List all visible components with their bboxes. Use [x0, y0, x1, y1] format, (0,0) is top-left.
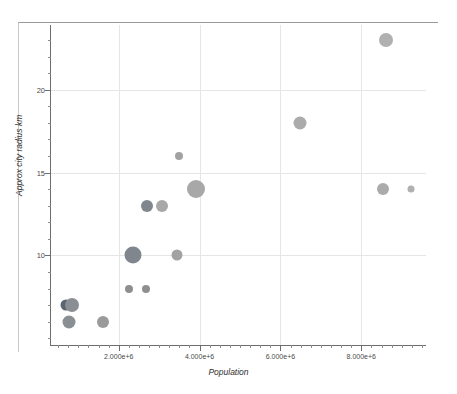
y-tick-minor: [48, 189, 51, 190]
x-tick-label: 8.000e+6: [331, 353, 391, 360]
y-tick-minor: [48, 40, 51, 41]
y-tick-minor: [48, 206, 51, 207]
x-tick-minor: [341, 345, 342, 348]
gridline-horizontal: [50, 173, 426, 174]
y-tick-label: 15: [5, 168, 45, 177]
x-tick-major: [200, 345, 201, 351]
data-point-bubble: [124, 247, 141, 264]
x-tick-minor: [78, 345, 79, 348]
y-tick-minor: [48, 73, 51, 74]
x-tick-major: [361, 345, 362, 351]
data-point-bubble: [65, 298, 79, 312]
x-tick-label: 6.000e+6: [250, 353, 310, 360]
y-tick-major: [45, 173, 51, 174]
y-tick-minor: [48, 338, 51, 339]
x-tick-minor: [371, 345, 372, 348]
x-tick-minor: [210, 345, 211, 348]
gridline-horizontal: [50, 255, 426, 256]
data-point-bubble: [408, 186, 415, 193]
x-tick-minor: [129, 345, 130, 348]
x-tick-minor: [351, 345, 352, 348]
y-tick-minor: [48, 305, 51, 306]
data-point-bubble: [125, 285, 133, 293]
x-tick-minor: [412, 345, 413, 348]
data-point-bubble: [171, 250, 182, 261]
x-tick-minor: [301, 345, 302, 348]
x-tick-minor: [392, 345, 393, 348]
gridline-vertical: [280, 25, 281, 345]
x-tick-minor: [99, 345, 100, 348]
data-point-bubble: [156, 200, 168, 212]
y-tick-label: 10: [5, 251, 45, 260]
x-tick-minor: [220, 345, 221, 348]
x-tick-minor: [58, 345, 59, 348]
plot-area: [50, 25, 426, 345]
x-tick-minor: [179, 345, 180, 348]
data-point-bubble: [63, 315, 76, 328]
x-tick-minor: [169, 345, 170, 348]
y-tick-minor: [48, 272, 51, 273]
x-tick-minor: [250, 345, 251, 348]
x-tick-label: 4.000e+6: [170, 353, 230, 360]
y-tick-minor: [48, 156, 51, 157]
data-point-bubble: [175, 152, 183, 160]
data-point-bubble: [187, 180, 205, 198]
x-tick-minor: [149, 345, 150, 348]
gridline-horizontal: [50, 90, 426, 91]
y-axis-title: Approx city radius km: [14, 115, 24, 196]
y-tick-minor: [48, 322, 51, 323]
x-tick-minor: [382, 345, 383, 348]
x-tick-label: 2.000e+6: [89, 353, 149, 360]
scatter-chart: 101520 2.000e+64.000e+66.000e+68.000e+6 …: [0, 0, 457, 394]
x-axis-title: Population: [0, 367, 457, 377]
x-tick-minor: [331, 345, 332, 348]
x-tick-minor: [159, 345, 160, 348]
data-point-bubble: [379, 33, 393, 47]
x-axis-line: [50, 345, 426, 346]
data-point-bubble: [377, 183, 389, 195]
y-tick-minor: [48, 239, 51, 240]
x-tick-minor: [88, 345, 89, 348]
x-tick-minor: [230, 345, 231, 348]
y-tick-minor: [48, 139, 51, 140]
x-tick-minor: [68, 345, 69, 348]
y-tick-minor: [48, 106, 51, 107]
data-point-bubble: [293, 116, 306, 129]
x-tick-major: [119, 345, 120, 351]
x-tick-minor: [260, 345, 261, 348]
x-tick-minor: [291, 345, 292, 348]
y-tick-major: [45, 255, 51, 256]
y-tick-minor: [48, 289, 51, 290]
y-tick-label: 20: [5, 85, 45, 94]
x-tick-minor: [422, 345, 423, 348]
x-tick-minor: [321, 345, 322, 348]
y-tick-minor: [48, 57, 51, 58]
x-tick-minor: [402, 345, 403, 348]
x-tick-minor: [139, 345, 140, 348]
x-tick-minor: [109, 345, 110, 348]
gridline-vertical: [361, 25, 362, 345]
data-point-bubble: [141, 200, 153, 212]
x-tick-minor: [189, 345, 190, 348]
y-tick-major: [45, 90, 51, 91]
data-point-bubble: [142, 285, 150, 293]
y-tick-minor: [48, 123, 51, 124]
y-tick-minor: [48, 222, 51, 223]
x-tick-minor: [240, 345, 241, 348]
x-tick-minor: [270, 345, 271, 348]
x-tick-major: [280, 345, 281, 351]
data-point-bubble: [97, 316, 109, 328]
x-tick-minor: [311, 345, 312, 348]
gridline-vertical: [119, 25, 120, 345]
